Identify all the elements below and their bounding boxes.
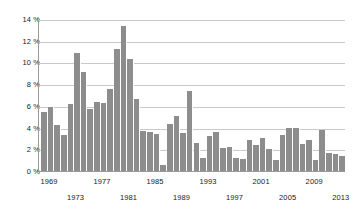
bar bbox=[260, 138, 267, 171]
y-axis-tick-label: 8 % bbox=[0, 81, 40, 89]
y-axis-tick-label: 6 % bbox=[0, 103, 40, 111]
x-axis-tick-label: 1993 bbox=[200, 178, 217, 186]
bar bbox=[213, 132, 220, 171]
bar bbox=[326, 153, 333, 171]
bar-series bbox=[40, 20, 345, 171]
bar bbox=[247, 140, 254, 171]
bar bbox=[286, 128, 293, 171]
bar bbox=[300, 144, 307, 171]
bar bbox=[61, 135, 68, 171]
y-axis-tick-label: 2 % bbox=[0, 146, 40, 154]
bar bbox=[114, 49, 121, 171]
bar bbox=[180, 133, 187, 171]
bar bbox=[339, 156, 346, 171]
x-axis-tick-label: 2009 bbox=[306, 178, 323, 186]
bar bbox=[127, 59, 134, 171]
bar bbox=[207, 136, 214, 171]
x-axis-tick-label: 1989 bbox=[173, 194, 190, 202]
y-axis-tick-label: 10 % bbox=[0, 59, 40, 67]
bar bbox=[41, 112, 48, 171]
bar bbox=[240, 159, 247, 171]
bar bbox=[200, 158, 207, 171]
bar bbox=[306, 140, 313, 171]
bar-chart: 0 %2 %4 %6 %8 %10 %12 %14 % 196919731977… bbox=[0, 0, 362, 220]
bar bbox=[134, 99, 141, 171]
bar bbox=[74, 53, 81, 171]
bar bbox=[280, 135, 287, 171]
bar bbox=[167, 124, 174, 171]
x-axis-tick-label: 1997 bbox=[226, 194, 243, 202]
x-axis-tick-label: 2005 bbox=[279, 194, 296, 202]
y-axis-tick-label: 12 % bbox=[0, 38, 40, 46]
bar bbox=[160, 165, 167, 172]
x-axis-tick-label: 1969 bbox=[40, 178, 57, 186]
x-axis-tick-label: 1981 bbox=[120, 194, 137, 202]
x-axis-tick-label: 2013 bbox=[332, 194, 349, 202]
x-axis-tick-label: 1985 bbox=[146, 178, 163, 186]
bar bbox=[81, 72, 88, 171]
bar bbox=[121, 26, 128, 171]
bar bbox=[233, 158, 240, 171]
bar bbox=[48, 107, 55, 171]
bar bbox=[253, 145, 260, 171]
bar bbox=[293, 128, 300, 171]
bar bbox=[220, 148, 227, 171]
bar bbox=[101, 103, 108, 171]
bar bbox=[313, 160, 320, 171]
y-axis-tick-label: 14 % bbox=[0, 16, 40, 24]
bar bbox=[333, 154, 340, 171]
bar bbox=[94, 102, 101, 171]
bar bbox=[87, 109, 94, 171]
x-axis-tick-label: 1973 bbox=[67, 194, 84, 202]
x-axis-tick-label: 2001 bbox=[253, 178, 270, 186]
bar bbox=[140, 131, 147, 171]
plot-area bbox=[38, 20, 345, 172]
bar bbox=[54, 125, 61, 171]
bar bbox=[154, 134, 161, 171]
bar bbox=[147, 132, 154, 171]
x-axis: 1969197319771981198519891993199720012005… bbox=[0, 175, 362, 220]
bar bbox=[266, 149, 273, 171]
bar bbox=[273, 160, 280, 171]
bar bbox=[68, 104, 75, 171]
x-axis-tick-label: 1977 bbox=[93, 178, 110, 186]
y-axis-tick-label: 4 % bbox=[0, 125, 40, 133]
bar bbox=[187, 91, 194, 171]
bar bbox=[227, 147, 234, 171]
bar bbox=[194, 143, 201, 171]
bar bbox=[174, 116, 181, 171]
bar bbox=[319, 130, 326, 171]
bar bbox=[107, 89, 114, 172]
